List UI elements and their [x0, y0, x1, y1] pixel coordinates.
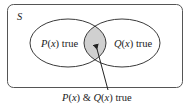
set-q-label: Q(x) true — [114, 38, 153, 50]
set-p-label: P(x) true — [40, 38, 78, 50]
universe-label: S — [17, 11, 23, 22]
intersection-label: P(x) & Q(x) true — [61, 92, 132, 104]
venn-diagram: S P(x) true Q(x) true P(x) & Q(x) true — [0, 0, 195, 108]
